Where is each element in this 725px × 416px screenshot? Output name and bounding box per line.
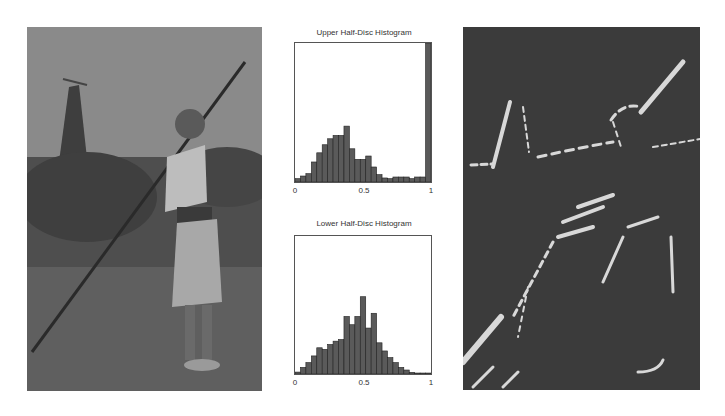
lower-histogram-title: Lower Half-Disc Histogram (284, 219, 444, 228)
lower-tick-1: 1 (429, 378, 433, 387)
histogram-bar (409, 179, 414, 182)
histogram-bar (295, 372, 300, 374)
histogram-bar (404, 370, 409, 374)
histogram-bar (366, 328, 371, 374)
histogram-bar (387, 358, 392, 374)
histogram-bar (360, 159, 365, 182)
histogram-bar (300, 176, 305, 182)
histogram-bar (398, 367, 403, 374)
histogram-bar (349, 325, 354, 374)
histogram-bar (387, 179, 392, 182)
histogram-bar (295, 179, 300, 182)
edge-lines (463, 27, 700, 390)
histogram-bar (366, 156, 371, 182)
histogram-bar (393, 177, 398, 182)
histogram-bar (360, 297, 365, 374)
histogram-bar (355, 316, 360, 374)
histogram-bar (398, 177, 403, 182)
histogram-bar (306, 363, 311, 374)
histogram-bar (426, 43, 431, 182)
edge-response-map (463, 27, 700, 390)
histogram-bar (377, 175, 382, 182)
histogram-bar (311, 356, 316, 374)
histogram-bar (382, 178, 387, 182)
histogram-bar (409, 372, 414, 374)
histogram-bar (317, 348, 322, 374)
histogram-bar (339, 340, 344, 375)
lower-tick-0.5: 0.5 (358, 378, 369, 387)
histogram-bar (333, 135, 338, 182)
histogram-bar (355, 159, 360, 182)
histogram-bar (420, 177, 425, 182)
histogram-bar (420, 373, 425, 374)
lower-tick-0: 0 (293, 378, 297, 387)
histogram-bar (322, 145, 327, 182)
histogram-bar (404, 177, 409, 182)
histogram-bar (426, 373, 431, 374)
histogram-bar (333, 341, 338, 374)
histogram-bar (344, 126, 349, 182)
lower-histogram-plot (294, 235, 432, 375)
histogram-bar (415, 373, 420, 374)
upper-tick-1: 1 (429, 186, 433, 195)
histogram-bar (377, 343, 382, 374)
upper-histogram-title: Upper Half-Disc Histogram (284, 28, 444, 37)
upper-histogram-bars (295, 43, 431, 182)
histogram-bar (344, 316, 349, 374)
histogram-bar (371, 313, 376, 374)
lower-histogram-bars (295, 236, 431, 374)
upper-tick-0.5: 0.5 (358, 186, 369, 195)
upper-histogram-plot (294, 42, 432, 183)
histogram-bar (415, 177, 420, 182)
histogram-bar (322, 349, 327, 374)
photo-illustration (27, 27, 262, 391)
histogram-bar (317, 153, 322, 182)
histogram-bar (382, 351, 387, 374)
histogram-bar (393, 363, 398, 374)
histogram-bar (339, 135, 344, 182)
histogram-bar (349, 149, 354, 182)
histogram-bar (306, 174, 311, 182)
histogram-bar (300, 367, 305, 374)
histogram-bar (311, 162, 316, 182)
input-photograph (27, 27, 262, 391)
histogram-bar (371, 167, 376, 182)
histogram-bar (328, 344, 333, 374)
upper-tick-0: 0 (293, 186, 297, 195)
histogram-bar (328, 139, 333, 182)
